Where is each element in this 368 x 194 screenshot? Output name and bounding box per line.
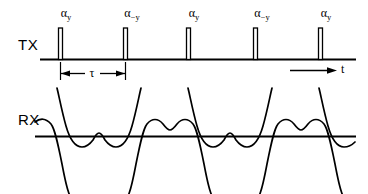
tx-pulse-4 [254,28,258,60]
pulse-sequence-figure: TX RX αy α−y αy α−y αy τ t [0,0,368,194]
rx-waveform [35,88,355,194]
pulse-label-3-subscript: y [195,12,199,22]
pulse-sequence-canvas [0,0,368,194]
tx-pulse-1 [59,28,63,60]
pulse-label-4-subscript: −y [261,12,270,22]
pulse-label-2: α−y [124,6,139,22]
pulse-label-2-subscript: −y [131,12,140,22]
time-axis-arrowhead [327,67,337,74]
tau-symbol-label: τ [90,66,95,81]
tx-channel-label: TX [18,36,38,53]
tau-arrowhead-left [61,71,70,77]
pulse-label-5: αy [321,6,332,22]
rx-channel-group [35,88,356,194]
rx-channel-label: RX [18,111,40,128]
tx-pulse-3 [187,28,191,60]
time-axis-label: t [341,62,344,77]
tx-pulse-5 [319,28,323,60]
tx-channel-group [40,28,356,60]
pulse-label-4: α−y [254,6,269,22]
tx-pulse-2 [124,28,128,60]
time-axis-arrow-group [290,67,337,74]
pulse-label-1-subscript: y [67,12,71,22]
pulse-label-3: αy [189,6,200,22]
tau-arrowhead-right [116,71,125,77]
pulse-label-5-subscript: y [327,12,331,22]
pulse-label-1: αy [61,6,72,22]
